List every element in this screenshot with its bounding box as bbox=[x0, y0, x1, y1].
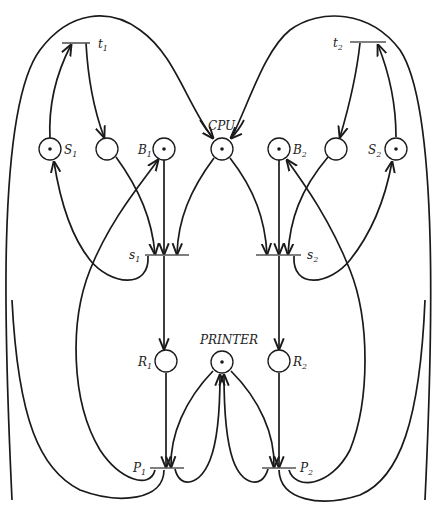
place-empty-2 bbox=[325, 138, 347, 160]
arc-PRINTER-P1 bbox=[171, 371, 213, 467]
arc-t1-place1 bbox=[86, 43, 104, 137]
arc-CPU-s2 bbox=[230, 158, 267, 254]
arcs bbox=[6, 16, 431, 501]
arc-P2-B2 bbox=[287, 160, 365, 483]
token-CPU bbox=[220, 147, 224, 151]
label-S1: S1 bbox=[64, 143, 77, 159]
arc-place2-s2 bbox=[288, 157, 328, 254]
label-t1: t1 bbox=[98, 37, 108, 53]
arc-P2-PRINTER bbox=[224, 375, 268, 482]
place-empty-1 bbox=[96, 138, 118, 160]
arc-s2-S2 bbox=[294, 162, 392, 280]
label-P2: P2 bbox=[299, 461, 313, 477]
token-PRINTER bbox=[220, 360, 224, 364]
label-B2: B2 bbox=[292, 143, 307, 159]
arc-t2-place2 bbox=[340, 43, 360, 137]
arc-CPU-s1 bbox=[177, 158, 214, 254]
label-B1: B1 bbox=[137, 143, 152, 159]
token-S2 bbox=[394, 147, 398, 151]
label-s2: s2 bbox=[307, 248, 318, 264]
label-t2: t2 bbox=[333, 36, 343, 52]
label-R1: R1 bbox=[137, 355, 152, 371]
token-S1 bbox=[48, 147, 52, 151]
arc-P1-PRINTER bbox=[175, 375, 220, 482]
labels: t1 t2 S1 B1 CPU B2 S2 s1 s2 R1 PRINTER R… bbox=[64, 36, 381, 477]
place-R1 bbox=[155, 350, 177, 372]
token-B1 bbox=[162, 147, 166, 151]
arc-P1-B1 bbox=[76, 160, 158, 480]
petri-net-diagram: t1 t2 S1 B1 CPU B2 S2 s1 s2 R1 PRINTER R… bbox=[0, 0, 437, 511]
place-R2 bbox=[268, 350, 290, 372]
token-B2 bbox=[277, 147, 281, 151]
arc-PRINTER-P2 bbox=[231, 371, 274, 467]
arc-S1-t1 bbox=[50, 45, 71, 139]
label-s1: s1 bbox=[129, 248, 140, 264]
label-PRINTER: PRINTER bbox=[199, 333, 258, 347]
label-R2: R2 bbox=[292, 355, 307, 371]
arc-t1-CPU bbox=[6, 16, 212, 500]
arc-S2-t2 bbox=[378, 45, 396, 137]
label-P1: P1 bbox=[132, 461, 146, 477]
label-S2: S2 bbox=[368, 143, 381, 159]
label-CPU: CPU bbox=[208, 119, 236, 133]
arc-t2-CPU bbox=[232, 16, 431, 500]
arc-s1-S1 bbox=[54, 162, 148, 280]
